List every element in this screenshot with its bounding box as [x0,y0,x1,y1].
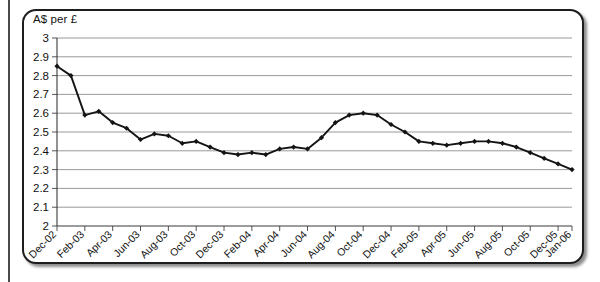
svg-text:Aug-03: Aug-03 [137,228,170,261]
svg-text:Dec-03: Dec-03 [193,228,226,261]
svg-text:Aug-04: Aug-04 [304,228,337,261]
svg-text:3: 3 [43,32,49,44]
svg-text:Oct-03: Oct-03 [167,228,198,259]
svg-text:Dec-02: Dec-02 [26,228,59,261]
svg-text:Aug-05: Aug-05 [471,228,504,261]
svg-text:Oct-04: Oct-04 [334,228,365,259]
svg-text:Feb-03: Feb-03 [54,228,86,260]
svg-text:2.2: 2.2 [33,182,49,194]
x-axis-ticks: Dec-02Feb-03Apr-03Jun-03Aug-03Oct-03Dec-… [26,226,574,260]
y-axis-ticks: 22.12.22.32.42.52.62.72.82.93 [33,32,57,232]
svg-text:Feb-05: Feb-05 [388,228,420,260]
svg-text:Oct-05: Oct-05 [501,228,532,259]
svg-text:Apr-05: Apr-05 [417,228,448,259]
svg-text:2.7: 2.7 [33,88,49,100]
svg-text:2.4: 2.4 [33,145,50,157]
svg-text:Jun-05: Jun-05 [445,228,476,259]
svg-text:Dec-04: Dec-04 [360,228,393,261]
svg-text:2.3: 2.3 [33,164,49,176]
svg-text:2.8: 2.8 [33,70,49,82]
svg-text:2.1: 2.1 [33,201,49,213]
svg-text:Feb-04: Feb-04 [221,228,253,260]
svg-text:2.6: 2.6 [33,107,49,119]
svg-text:Jun-03: Jun-03 [111,228,142,259]
data-series [54,64,574,173]
exchange-rate-figure: A$ per £ 22.12.22.32.42.52.62.72.82.93 D… [0,0,600,282]
svg-text:Apr-03: Apr-03 [83,228,114,259]
svg-text:Jun-04: Jun-04 [278,228,309,259]
svg-text:Apr-04: Apr-04 [250,228,281,259]
svg-text:2.5: 2.5 [33,126,49,138]
svg-text:2.9: 2.9 [33,51,49,63]
gridlines [57,38,572,207]
line-chart-plot: 22.12.22.32.42.52.62.72.82.93 Dec-02Feb-… [0,0,600,282]
